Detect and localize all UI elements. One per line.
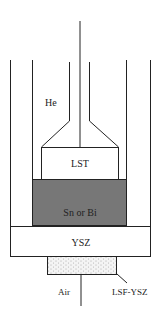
label-he: He [45, 97, 57, 108]
metal-anode [33, 180, 127, 226]
label-lsf-ysz: LSF-YSZ [112, 287, 148, 297]
label-ysz: YSZ [72, 237, 91, 248]
label-metal: Sn or Bi [63, 207, 97, 218]
label-lst: LST [71, 158, 89, 169]
label-air: Air [58, 287, 70, 297]
lsf-ysz-leader [117, 274, 127, 283]
cell-diagram: He LST Sn or Bi YSZ LSF-YSZ Air [0, 0, 161, 322]
lsf-ysz-cathode [48, 257, 117, 275]
gas-tube-right [90, 62, 119, 147]
